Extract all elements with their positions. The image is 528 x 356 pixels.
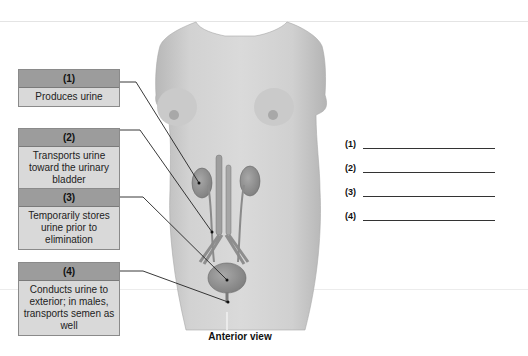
aorta <box>216 155 222 235</box>
answer-line[interactable] <box>363 196 495 197</box>
right-areola <box>268 110 278 120</box>
answer-line[interactable] <box>363 220 495 221</box>
answer-number: (1) <box>345 139 356 149</box>
label-number: (2) <box>19 129 119 147</box>
label-box-ureter: (2) Transports urine toward the urinary … <box>18 128 120 190</box>
answer-line[interactable] <box>363 148 495 149</box>
answer-blank-2[interactable]: (2) <box>345 163 356 173</box>
label-number: (1) <box>19 70 119 88</box>
leader-dot-1 <box>198 182 201 185</box>
label-description: Temporarily stores urine prior to elimin… <box>19 207 119 249</box>
answer-blank-1[interactable]: (1) <box>345 139 356 149</box>
label-description: Transports urine toward the urinary blad… <box>19 147 119 189</box>
right-breast <box>254 88 294 126</box>
label-number: (4) <box>19 263 119 281</box>
leader-dot-4 <box>227 301 230 304</box>
answer-line[interactable] <box>363 172 495 173</box>
label-box-bladder: (3) Temporarily stores urine prior to el… <box>18 188 120 250</box>
leader-dot-3 <box>226 279 229 282</box>
answer-number: (4) <box>345 211 356 221</box>
left-areola <box>169 110 179 120</box>
label-description: Conducts urine to exterior; in males, tr… <box>19 281 119 335</box>
figure-caption: Anterior view <box>200 331 280 342</box>
vena-cava <box>226 165 231 235</box>
label-box-urethra: (4) Conducts urine to exterior; in males… <box>18 262 120 336</box>
label-box-kidney: (1) Produces urine <box>18 69 120 107</box>
answer-number: (3) <box>345 187 356 197</box>
answer-number: (2) <box>345 163 356 173</box>
answer-blank-3[interactable]: (3) <box>345 187 356 197</box>
leader-dot-2 <box>211 231 214 234</box>
urinary-bladder <box>208 263 246 293</box>
label-number: (3) <box>19 189 119 207</box>
label-description: Produces urine <box>19 88 119 106</box>
left-breast <box>157 88 197 126</box>
answer-blank-4[interactable]: (4) <box>345 211 356 221</box>
